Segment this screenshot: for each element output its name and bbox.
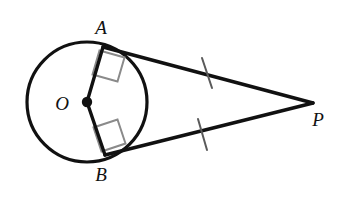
label-center-o: O [55,93,69,114]
label-point-b: B [95,164,107,185]
label-point-a: A [93,17,107,38]
circle-tangent-figure: O A B P [0,0,358,199]
geometry-diagram-canvas: O A B P [0,0,358,199]
center-point-dot [82,97,92,107]
label-point-p: P [311,109,324,130]
